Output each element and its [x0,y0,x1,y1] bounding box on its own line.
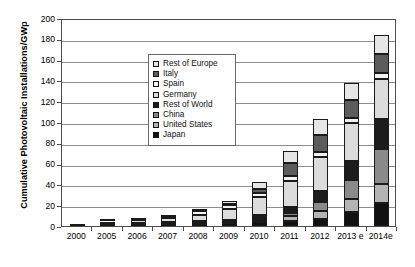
legend-swatch-icon [153,122,159,128]
bar-segment-germany [344,123,359,160]
bar-segment-japan [161,224,176,226]
x-tick-mark [213,227,214,231]
bar-2012 [313,119,328,226]
y-tick-160: 160 [21,56,55,65]
bar-segment-rest-of-world [222,219,237,221]
bar-segment-rest-of-europe [131,218,146,220]
bar-segment-rest-of-europe [313,119,328,135]
bar-segment-spain [283,176,298,180]
legend-swatch-icon [153,112,159,118]
bar-segment-united-states [252,220,267,223]
bar-segment-germany [192,215,207,221]
bar-segment-rest-of-europe [344,83,359,101]
bar-segment-rest-of-world [283,207,298,213]
bar-segment-spain [222,205,237,209]
y-tick-60: 60 [21,160,55,169]
bar-segment-rest-of-europe [283,151,298,162]
legend-item-label: Japan [163,131,185,139]
bar-2008 [192,210,207,226]
bar-segment-germany [161,218,176,222]
legend-item-rest-of-europe: Rest of Europe [153,59,230,69]
y-tick-140: 140 [21,77,55,86]
y-tick-120: 120 [21,98,55,107]
x-tick-mark [244,227,245,231]
bar-segment-spain [344,118,359,123]
bar-segment-germany [222,209,237,220]
bar-segment-japan [222,223,237,226]
y-tick-0: 0 [21,223,55,232]
gridline [62,41,395,42]
bar-segment-japan [374,203,389,226]
x-tick-2014e: 2014e [361,232,401,241]
legend-item-italy: Italy [153,69,230,79]
bar-2006 [131,219,146,226]
y-tick-100: 100 [21,119,55,128]
bar-segment-germany [374,79,389,119]
x-tick-mark [183,227,184,231]
legend-item-label: China [163,111,184,119]
bar-segment-rest-of-world [313,191,328,202]
bar-segment-japan [192,224,207,226]
bar-2011 [283,151,298,226]
bar-segment-japan [283,221,298,226]
bar-2014e [374,35,389,226]
x-tick-mark [305,227,306,231]
plot-area: Rest of EuropeItalySpainGermanyRest of W… [61,19,396,227]
bar-segment-italy [283,163,298,176]
chart-legend: Rest of EuropeItalySpainGermanyRest of W… [148,54,236,146]
x-tick-mark [91,227,92,231]
y-tick-mark [57,227,61,228]
bar-segment-china [313,202,328,211]
bar-segment-italy [252,189,267,193]
bar-segment-united-states [374,184,389,203]
bar-segment-rest-of-europe [252,182,267,189]
bar-segment-japan [344,212,359,226]
bar-segment-rest-of-world [344,161,359,181]
bar-segment-rest-of-europe [374,35,389,54]
bar-segment-japan [252,222,267,226]
bar-2009 [222,201,237,226]
bar-segment-italy [313,135,328,152]
bar-segment-rest-of-europe [161,215,176,217]
legend-swatch-icon [153,61,159,67]
y-tick-200: 200 [21,15,55,24]
x-tick-mark [396,227,397,231]
bar-segment-germany [100,222,115,224]
bar-segment-china [374,149,389,183]
legend-item-germany: Germany [153,90,230,100]
bar-segment-china [344,180,359,199]
bar-segment-germany [313,157,328,191]
bar-segment-germany [283,181,298,207]
legend-swatch-icon [153,81,159,87]
bar-segment-united-states [344,199,359,211]
photovoltaic-installations-chart: Cumulative Photovoltaic Installations/GW… [0,0,415,267]
bar-segment-united-states [313,211,328,219]
y-tick-180: 180 [21,35,55,44]
x-tick-mark [366,227,367,231]
x-tick-mark [274,227,275,231]
bar-2005 [100,221,115,226]
legend-swatch-icon [153,102,159,108]
bar-segment-germany [252,197,267,215]
bar-segment-germany [131,220,146,223]
legend-item-label: United States [163,121,212,129]
bar-segment-italy [344,100,359,118]
bar-segment-rest-of-world [252,215,267,219]
bar-segment-italy [374,54,389,73]
bar-segment-spain [252,193,267,197]
x-tick-mark [152,227,153,231]
bar-segment-rest-of-europe [222,201,237,204]
bar-segment-rest-of-europe [192,209,207,211]
x-tick-mark [335,227,336,231]
bar-segment-china [283,213,298,216]
legend-item-label: Spain [163,80,184,88]
y-tick-20: 20 [21,202,55,211]
legend-swatch-icon [153,71,159,77]
legend-item-label: Rest of World [163,101,212,109]
bar-2013-e [344,82,359,226]
bar-segment-japan [313,219,328,226]
bar-segment-rest-of-world [374,119,389,150]
bar-2010 [252,182,267,226]
bar-segment-united-states [283,216,298,221]
bar-segment-japan [131,224,146,226]
